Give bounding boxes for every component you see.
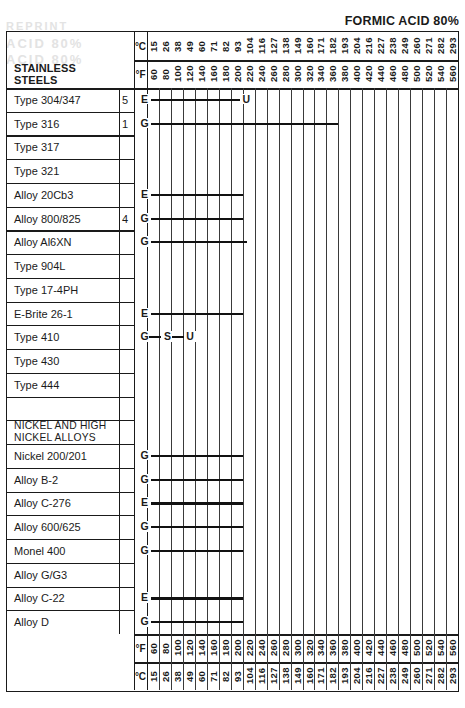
axis-tick-celsius-top: 15 — [147, 34, 159, 58]
axis-tick-celsius-bottom: 26 — [159, 664, 171, 688]
footer-grid-line — [231, 634, 232, 690]
rating-marker-start: G — [138, 450, 151, 461]
row-footnote: 5 — [119, 88, 134, 112]
axis-tick-celsius-bottom: 160 — [303, 664, 315, 688]
axis-tick-fahrenheit-top: 300 — [291, 62, 303, 86]
axis-tick-fahrenheit-top: 60 — [147, 62, 159, 86]
footer-grid-line — [350, 634, 351, 690]
axis-tick-fahrenheit-top: 380 — [338, 62, 350, 86]
axis-tick-fahrenheit-bottom: 520 — [422, 636, 434, 660]
axis-tick-fahrenheit-bottom: 500 — [410, 636, 422, 660]
rating-marker-start: E — [138, 189, 151, 200]
axis-tick-fahrenheit-bottom: 340 — [314, 636, 326, 660]
rating-connector — [172, 336, 184, 338]
axis-tick-celsius-bottom: 149 — [291, 664, 303, 688]
axis-tick-fahrenheit-bottom: 400 — [350, 636, 362, 660]
axis-tick-fahrenheit-top: 80 — [159, 62, 171, 86]
row-label: Type 304/347 — [7, 88, 119, 112]
axis-tick-celsius-top: 104 — [243, 34, 255, 58]
footer-grid-line — [374, 634, 375, 690]
grid-line — [291, 88, 292, 634]
row-label: Type 430 — [7, 349, 119, 373]
resistance-bar — [147, 313, 243, 315]
row-divider — [7, 397, 135, 398]
resistance-bar — [147, 218, 243, 220]
grid-line — [159, 88, 160, 634]
axis-tick-fahrenheit-bottom: 440 — [374, 636, 386, 660]
axis-tick-celsius-bottom: 60 — [195, 664, 207, 688]
row-label: Type 316 — [7, 112, 119, 136]
rating-marker-start: E — [138, 94, 151, 105]
axis-tick-celsius-top: 204 — [350, 34, 362, 58]
axis-tick-celsius-bottom: 182 — [326, 664, 338, 688]
grid-line — [326, 88, 327, 634]
rating-marker-start: G — [138, 118, 151, 129]
grid-line — [195, 88, 196, 634]
row-footnote: 4 — [119, 207, 134, 231]
corrosion-resistance-chart: REPRINT ACID 80% ACID 80% FORMIC ACID 80… — [0, 0, 465, 708]
grid-line — [207, 88, 208, 634]
footer-grid-line — [314, 634, 315, 690]
axis-tick-celsius-top: 138 — [279, 34, 291, 58]
celsius-unit-header: °C — [134, 32, 147, 60]
axis-tick-fahrenheit-top: 120 — [183, 62, 195, 86]
axis-tick-fahrenheit-top: 260 — [267, 62, 279, 86]
axis-tick-fahrenheit-bottom: 540 — [434, 636, 446, 660]
row-label: Type 904L — [7, 254, 119, 278]
row-label: Alloy C-22 — [7, 587, 119, 611]
axis-tick-celsius-bottom: 71 — [207, 664, 219, 688]
footer-grid-line — [446, 634, 447, 690]
axis-tick-fahrenheit-top: 440 — [374, 62, 386, 86]
rating-marker-start: G — [138, 521, 151, 532]
axis-tick-celsius-top: 93 — [231, 34, 243, 58]
axis-tick-celsius-top: 193 — [338, 34, 350, 58]
axis-tick-fahrenheit-bottom: 280 — [279, 636, 291, 660]
axis-tick-celsius-bottom: 15 — [147, 664, 159, 688]
axis-tick-celsius-top: 216 — [362, 34, 374, 58]
section-header-stainless-steels: STAINLESS STEELS — [7, 60, 119, 88]
grid-line — [314, 88, 315, 634]
axis-tick-celsius-bottom: 227 — [374, 664, 386, 688]
footer-grid-line — [303, 634, 304, 690]
grid-line — [374, 88, 375, 634]
rating-marker-start: E — [138, 497, 151, 508]
axis-tick-celsius-bottom: 49 — [183, 664, 195, 688]
axis-tick-celsius-top: 271 — [422, 34, 434, 58]
footer-grid-line — [398, 634, 399, 690]
grid-line — [422, 88, 423, 634]
axis-tick-fahrenheit-bottom: 260 — [267, 636, 279, 660]
resistance-bar — [147, 241, 247, 243]
rating-connector — [149, 336, 161, 338]
axis-tick-fahrenheit-top: 420 — [362, 62, 374, 86]
grid-line — [303, 88, 304, 634]
footer-grid-line — [362, 634, 363, 690]
grid-line — [434, 88, 435, 634]
grid-line — [279, 88, 280, 634]
axis-tick-fahrenheit-bottom: 160 — [207, 636, 219, 660]
grid-line — [171, 88, 172, 634]
row-label: Monel 400 — [7, 539, 119, 563]
row-label: Nickel 200/201 — [7, 444, 119, 468]
axis-tick-celsius-top: 249 — [398, 34, 410, 58]
axis-tick-celsius-bottom: 249 — [398, 664, 410, 688]
axis-tick-fahrenheit-bottom: 420 — [362, 636, 374, 660]
axis-tick-fahrenheit-top: 180 — [219, 62, 231, 86]
footer-grid-line — [183, 634, 184, 690]
axis-tick-celsius-top: 282 — [434, 34, 446, 58]
axis-tick-celsius-top: 60 — [195, 34, 207, 58]
footer-grid-line — [410, 634, 411, 690]
footer-grid-line — [255, 634, 256, 690]
row-label: Alloy G/G3 — [7, 563, 119, 587]
axis-tick-fahrenheit-bottom: 60 — [147, 636, 159, 660]
axis-tick-celsius-top: 149 — [291, 34, 303, 58]
grid-line — [350, 88, 351, 634]
row-label: Alloy 20Cb3 — [7, 183, 119, 207]
axis-tick-fahrenheit-top: 460 — [386, 62, 398, 86]
resistance-bar — [147, 194, 243, 196]
row-label: Type 17-4PH — [7, 278, 119, 302]
footer-grid-line — [386, 634, 387, 690]
resistance-bar — [147, 479, 243, 481]
resistance-bar — [147, 621, 243, 623]
axis-tick-fahrenheit-bottom: 120 — [183, 636, 195, 660]
grid-line — [362, 88, 363, 634]
